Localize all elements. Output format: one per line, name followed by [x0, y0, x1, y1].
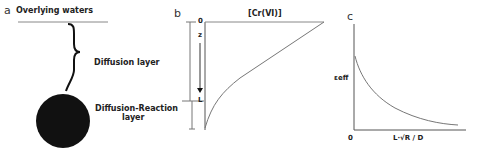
- overlying-waters-label: Overlying waters: [16, 7, 93, 15]
- particle-circle: [36, 94, 90, 148]
- diffusion-layer-brace: [66, 24, 80, 91]
- panel-a-letter: a: [4, 5, 11, 16]
- c-efficiency-curve: [355, 56, 458, 125]
- c-x-axis-label: L·√R / D: [393, 135, 423, 142]
- b-concentration-profile: [205, 22, 324, 128]
- epsilon-eff-label: εeff: [334, 75, 348, 82]
- cr-vi-axis-title: [Cr(VI)]: [248, 10, 282, 18]
- panel-b-letter: b: [174, 8, 181, 19]
- b-tick-zero: 0: [198, 18, 203, 25]
- diffusion-reaction-label-line1: Diffusion-Reaction: [95, 105, 178, 113]
- depth-z-label: z: [198, 32, 202, 39]
- panel-c-letter: c: [347, 11, 353, 22]
- c-origin-label: 0: [348, 135, 353, 142]
- diffusion-reaction-label-line2: layer: [122, 114, 144, 122]
- diffusion-layer-label: Diffusion layer: [94, 59, 160, 67]
- b-tick-L: L: [198, 97, 202, 104]
- depth-arrow-head-icon: [197, 88, 203, 93]
